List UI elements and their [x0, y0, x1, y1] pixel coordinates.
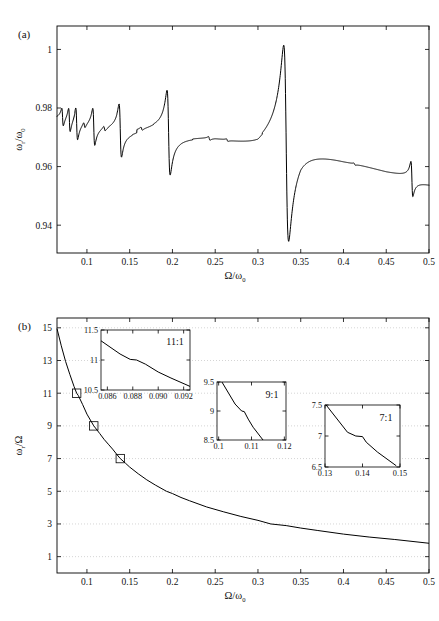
- x-tick-label: 0.45: [378, 577, 395, 587]
- inset-y-tick-label: 7: [318, 432, 322, 441]
- inset-7-1: 0.130.140.156.577.57:1: [312, 401, 407, 478]
- inset-y-tick-label: 10.5: [84, 386, 98, 395]
- x-tick-label: 0.45: [378, 257, 395, 267]
- panel-b-label: (b): [18, 320, 31, 333]
- x-tick-label: 0.2: [167, 577, 179, 587]
- inset-x-tick-label: 0.090: [149, 392, 167, 401]
- inset-y-tick-label: 11.5: [84, 326, 98, 335]
- inset-11-1: 0.0860.0880.0900.09210.51111.511:1: [84, 326, 193, 401]
- inset-x-tick-label: 0.088: [124, 392, 142, 401]
- y-tick-label: 0.98: [35, 103, 52, 113]
- inset-9-1: 0.10.110.128.599.59:1: [204, 378, 292, 451]
- x-tick-label: 0.1: [81, 257, 93, 267]
- figure-canvas: 0.10.150.20.250.30.350.40.450.50.940.960…: [0, 0, 439, 621]
- panel-a-frame: [57, 26, 429, 253]
- inset-y-tick-label: 9.5: [204, 378, 214, 387]
- x-tick-label: 0.5: [423, 257, 435, 267]
- scientific-figure: 0.10.150.20.250.30.350.40.450.50.940.960…: [0, 0, 439, 621]
- x-tick-label: 0.35: [292, 257, 309, 267]
- panel-b-xlabel: Ω/ω0: [225, 590, 247, 603]
- x-tick-label: 0.1: [81, 577, 93, 587]
- y-tick-label: 7: [47, 454, 52, 464]
- y-tick-label: 11: [43, 389, 52, 399]
- inset-x-tick-label: 0.11: [244, 442, 258, 451]
- y-tick-label: 1: [47, 552, 52, 562]
- inset-y-tick-label: 8.5: [204, 436, 214, 445]
- inset-label: 9:1: [266, 389, 279, 400]
- x-tick-label: 0.4: [338, 257, 350, 267]
- inset-y-tick-label: 6.5: [312, 463, 322, 472]
- panel-a-curve: [57, 45, 429, 241]
- x-tick-label: 0.15: [121, 577, 138, 587]
- inset-label: 7:1: [380, 412, 393, 423]
- inset-label: 11:1: [166, 336, 183, 347]
- panel-a-ylabel: ωr/ω0: [13, 128, 26, 151]
- x-tick-label: 0.2: [167, 257, 179, 267]
- inset-x-tick-label: 0.12: [277, 442, 291, 451]
- panel-a-label: (a): [18, 28, 31, 41]
- x-tick-label: 0.5: [423, 577, 435, 587]
- y-tick-label: 0.96: [35, 162, 52, 172]
- inset-x-tick-label: 0.086: [98, 392, 116, 401]
- x-tick-label: 0.3: [252, 257, 264, 267]
- y-tick-label: 9: [47, 421, 52, 431]
- x-tick-label: 0.35: [292, 577, 309, 587]
- x-tick-label: 0.25: [207, 257, 224, 267]
- panel-a-xlabel: Ω/ω0: [225, 270, 247, 283]
- y-tick-label: 3: [47, 519, 52, 529]
- inset-x-tick-label: 0.092: [174, 392, 192, 401]
- inset-y-tick-label: 11: [90, 356, 98, 365]
- inset-y-tick-label: 7.5: [312, 401, 322, 410]
- panel-a: 0.10.150.20.250.30.350.40.450.50.940.960…: [35, 26, 435, 267]
- y-tick-label: 5: [47, 487, 52, 497]
- inset-x-tick-label: 0.1: [214, 442, 224, 451]
- x-tick-label: 0.25: [207, 577, 224, 587]
- y-tick-label: 1: [47, 45, 52, 55]
- inset-x-tick-label: 0.15: [393, 469, 407, 478]
- y-tick-label: 15: [43, 323, 53, 333]
- panel-a-annotations: (a)Ω/ω0ωr/ω0: [13, 28, 246, 283]
- y-tick-label: 13: [43, 356, 53, 366]
- y-tick-label: 0.94: [35, 221, 52, 231]
- x-tick-label: 0.15: [121, 257, 138, 267]
- x-tick-label: 0.3: [252, 577, 264, 587]
- inset-x-tick-label: 0.14: [355, 469, 369, 478]
- x-tick-label: 0.4: [338, 577, 350, 587]
- panel-b-ylabel: ωr/Ω: [13, 435, 26, 455]
- inset-y-tick-label: 9: [210, 407, 214, 416]
